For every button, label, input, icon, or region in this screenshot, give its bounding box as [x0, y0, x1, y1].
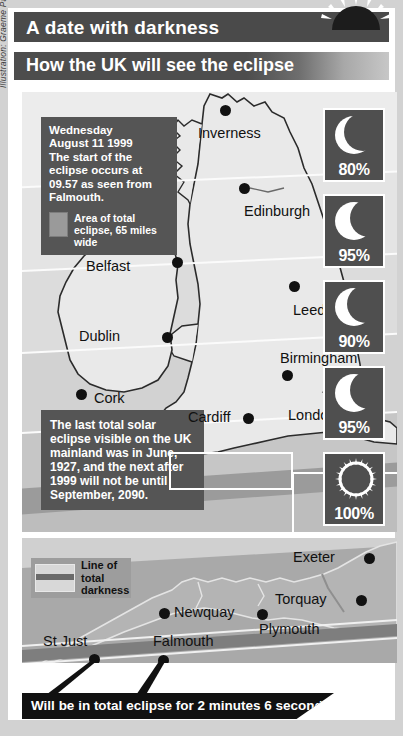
- percent-value: 95%: [325, 246, 383, 266]
- figure-frame: WednesdayAugust 11 1999The start of thee…: [8, 8, 395, 720]
- percent-panel: 95%: [323, 366, 385, 440]
- totality-line-swatch: [35, 564, 75, 592]
- percent-value: 90%: [325, 332, 383, 352]
- corona-sun-icon: [325, 454, 383, 504]
- city-dot: [76, 389, 87, 400]
- crescent-thick-icon: [325, 110, 383, 160]
- inset-legend: Line of total darkness: [31, 558, 131, 598]
- city-label: Exeter: [293, 549, 335, 565]
- city-label: Edinburgh: [244, 203, 310, 219]
- duration-banner: Will be in total eclipse for 2 minutes 6…: [22, 693, 334, 719]
- city-label: Falmouth: [153, 633, 213, 649]
- subtitle-bar: How the UK will see the eclipse: [14, 52, 389, 80]
- city-label: Plymouth: [259, 621, 319, 637]
- city-dot: [257, 609, 268, 620]
- city-dot: [356, 595, 367, 606]
- total-eclipse-swatch: [49, 212, 68, 237]
- city-dot: [364, 553, 375, 564]
- percent-panel: 100%: [323, 452, 385, 526]
- city-dot: [282, 370, 293, 381]
- half-sun-icon: [318, 0, 394, 30]
- total-eclipse-legend-label: Area of total eclipse, 65 miles wide: [74, 212, 171, 249]
- city-label: Inverness: [198, 125, 261, 141]
- inset-region-outline: [169, 452, 293, 490]
- page-title: A date with darkness: [26, 17, 219, 39]
- date-info-text: WednesdayAugust 11 1999The start of thee…: [49, 124, 171, 205]
- crescent-thin-icon: [325, 368, 383, 418]
- city-label: Cork: [94, 390, 125, 406]
- page-subtitle: How the UK will see the eclipse: [26, 55, 294, 76]
- city-dot: [289, 281, 300, 292]
- city-label: Belfast: [86, 258, 130, 274]
- percent-panel: 90%: [323, 280, 385, 354]
- inset-map[interactable]: Line of total darkness ExeterTorquayNewq…: [22, 538, 397, 663]
- percent-panel: 95%: [323, 194, 385, 268]
- city-label: Cardiff: [188, 409, 230, 425]
- infographic: WednesdayAugust 11 1999The start of thee…: [0, 0, 403, 736]
- percent-value: 80%: [325, 160, 383, 180]
- city-label: Dublin: [79, 328, 120, 344]
- city-label: St Just: [43, 633, 87, 649]
- city-label: Torquay: [275, 591, 327, 607]
- date-info-box: WednesdayAugust 11 1999The start of thee…: [41, 117, 177, 255]
- percent-panel: 80%: [323, 108, 385, 182]
- city-label: Newquay: [174, 604, 234, 620]
- percent-value: 100%: [325, 504, 383, 524]
- city-dot: [89, 654, 100, 663]
- city-dot: [172, 257, 183, 268]
- illustration-credit: Illustration: Graeme Park/PA: [0, 0, 8, 88]
- crescent-medium-icon: [325, 282, 383, 332]
- duration-banner-text: Will be in total eclipse for 2 minutes 6…: [31, 698, 330, 713]
- city-dot: [220, 105, 231, 116]
- city-dot: [162, 332, 173, 343]
- percent-value: 95%: [325, 418, 383, 438]
- city-dot: [239, 183, 250, 194]
- crescent-thin-icon: [325, 196, 383, 246]
- inset-legend-label: Line of total darkness: [81, 559, 131, 597]
- city-dot: [158, 655, 169, 663]
- city-dot: [159, 608, 170, 619]
- city-dot: [243, 413, 254, 424]
- total-eclipse-legend: Area of total eclipse, 65 miles wide: [49, 212, 171, 249]
